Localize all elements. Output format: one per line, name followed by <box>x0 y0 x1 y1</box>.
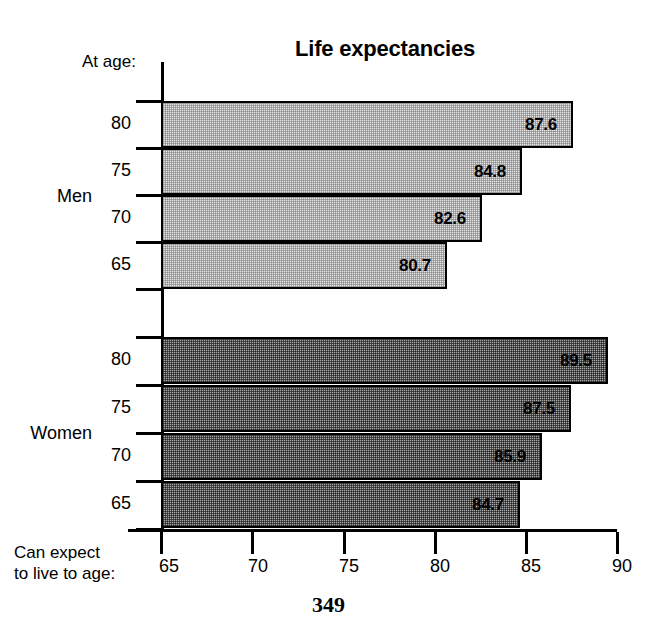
y-label-women-65: 65 <box>95 493 131 514</box>
x-tick-label-75: 75 <box>329 556 369 577</box>
bar-row-women-70[interactable]: 85.9 <box>161 433 617 480</box>
x-axis-caption-line1: Can expect <box>14 542 154 563</box>
x-axis-caption: Can expect to live to age: <box>14 542 154 584</box>
y-label-men-80: 80 <box>95 113 131 134</box>
bar-row-women-80[interactable]: 89.5 <box>161 337 617 384</box>
y-tick-men-bottom <box>136 288 163 291</box>
bar-value-women-75: 87.5 <box>523 399 555 419</box>
x-tick-90 <box>616 532 619 554</box>
y-label-men-65: 65 <box>95 254 131 275</box>
x-axis-caption-line2: to live to age: <box>14 563 154 584</box>
x-tick-75 <box>343 532 346 554</box>
y-tick-women-65 <box>136 480 163 483</box>
y-label-women-75: 75 <box>95 397 131 418</box>
x-tick-85 <box>525 532 528 554</box>
bar-row-men-65[interactable]: 80.7 <box>161 242 617 289</box>
y-tick-men-75 <box>136 147 163 150</box>
x-tick-80 <box>434 532 437 554</box>
bar-value-men-70: 82.6 <box>434 209 466 229</box>
y-tick-men-70 <box>136 194 163 197</box>
x-tick-label-70: 70 <box>238 556 278 577</box>
y-label-men-70: 70 <box>95 207 131 228</box>
y-axis-caption: At age: <box>82 52 136 72</box>
bar-row-women-65[interactable]: 84.7 <box>161 481 617 528</box>
y-tick-women-75 <box>136 384 163 387</box>
x-axis-line <box>128 529 617 532</box>
bar-value-men-80: 87.6 <box>525 115 557 135</box>
y-label-women-70: 70 <box>95 445 131 466</box>
bar-row-men-75[interactable]: 84.8 <box>161 148 617 195</box>
bar-row-men-70[interactable]: 82.6 <box>161 195 617 242</box>
life-expectancies-chart: Life expectancies At age: Men 80 87.6 75… <box>0 0 657 631</box>
y-tick-women-70 <box>136 432 163 435</box>
page-number: 349 <box>0 592 657 618</box>
bar-women-65[interactable] <box>161 481 520 528</box>
y-label-men-75: 75 <box>95 160 131 181</box>
bar-value-women-65: 84.7 <box>472 495 504 515</box>
bar-row-men-80[interactable]: 87.6 <box>161 101 617 148</box>
y-label-women-80: 80 <box>95 349 131 370</box>
x-tick-label-85: 85 <box>511 556 551 577</box>
bar-value-women-70: 85.9 <box>494 447 526 467</box>
bar-women-75[interactable] <box>161 385 571 432</box>
x-tick-label-65: 65 <box>149 556 189 577</box>
chart-title: Life expectancies <box>250 36 520 62</box>
x-tick-70 <box>251 532 254 554</box>
x-tick-65 <box>160 532 163 554</box>
bar-women-80[interactable] <box>161 337 608 384</box>
y-tick-men-65 <box>136 241 163 244</box>
bar-men-80[interactable] <box>161 101 573 148</box>
x-tick-label-80: 80 <box>420 556 460 577</box>
group-label-women: Women <box>0 423 92 444</box>
y-tick-women-bottom <box>136 528 163 531</box>
bar-women-70[interactable] <box>161 433 542 480</box>
y-tick-women-80 <box>136 336 163 339</box>
bar-value-women-80: 89.5 <box>560 351 592 371</box>
bar-value-men-65: 80.7 <box>399 256 431 276</box>
bar-row-women-75[interactable]: 87.5 <box>161 385 617 432</box>
group-label-men: Men <box>0 186 92 207</box>
x-tick-label-90: 90 <box>602 556 642 577</box>
y-tick-men-80 <box>136 100 163 103</box>
bar-value-men-75: 84.8 <box>474 162 506 182</box>
bar-men-75[interactable] <box>161 148 522 195</box>
